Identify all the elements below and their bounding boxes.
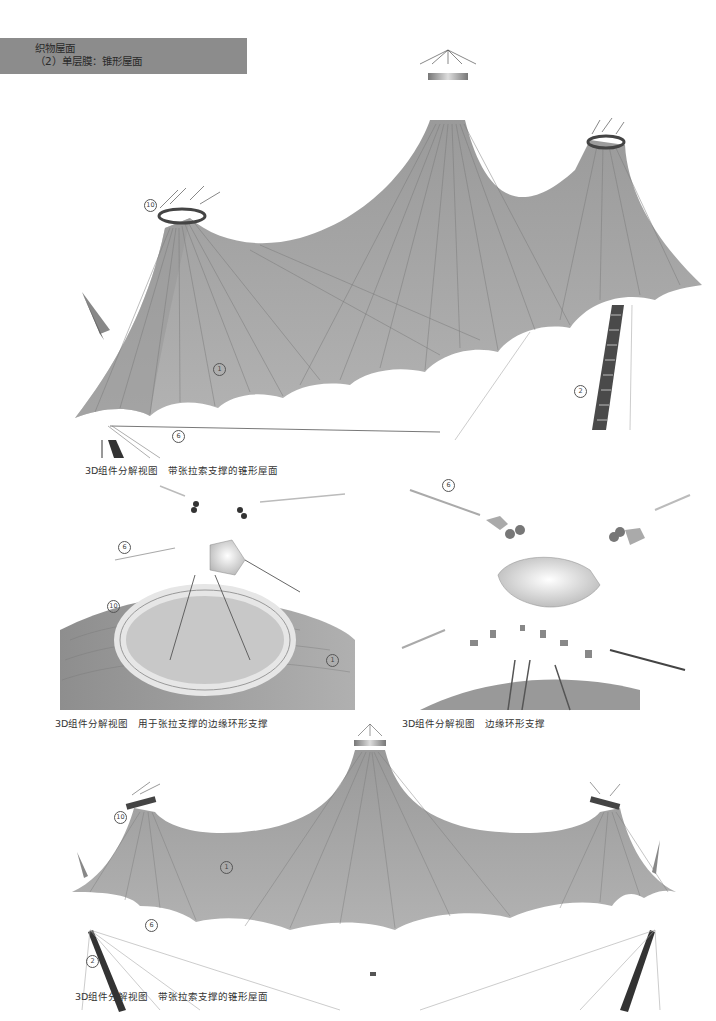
figure-caption-middle-left: 3D组件分解视图用于张拉支撑的边缘环形支撑 <box>55 716 268 730</box>
callout-1: 1 <box>326 654 339 667</box>
callout-6: 6 <box>118 541 131 554</box>
callout-2: 2 <box>86 955 99 968</box>
caption-text: 带张拉索支撑的锥形屋面 <box>158 991 268 1002</box>
callout-1: 1 <box>220 861 233 874</box>
caption-prefix: 3D组件分解视图 <box>55 718 128 729</box>
figure-bottom-membrane <box>72 724 676 1012</box>
callout-10: 10 <box>107 600 120 613</box>
caption-text: 带张拉索支撑的锥形屋面 <box>168 465 278 476</box>
callout-6: 6 <box>172 430 185 443</box>
figure-top-membrane <box>75 50 702 458</box>
caption-prefix: 3D组件分解视图 <box>85 465 158 476</box>
caption-text: 边缘环形支撑 <box>485 718 545 729</box>
figure-middle-left <box>60 486 355 710</box>
callout-6: 6 <box>442 479 455 492</box>
figure-middle-right <box>402 490 690 710</box>
callout-6: 6 <box>145 919 158 932</box>
caption-text: 用于张拉支撑的边缘环形支撑 <box>138 718 268 729</box>
callout-10: 10 <box>144 199 157 212</box>
caption-prefix: 3D组件分解视图 <box>75 991 148 1002</box>
callout-2: 2 <box>574 385 587 398</box>
caption-prefix: 3D组件分解视图 <box>402 718 475 729</box>
illustrations <box>0 0 716 1021</box>
figure-caption-top: 3D组件分解视图带张拉索支撑的锥形屋面 <box>85 463 278 477</box>
figure-caption-middle-right: 3D组件分解视图边缘环形支撑 <box>402 716 545 730</box>
callout-1: 1 <box>213 363 226 376</box>
callout-10: 10 <box>114 811 127 824</box>
figure-caption-bottom: 3D组件分解视图带张拉索支撑的锥形屋面 <box>75 989 268 1003</box>
